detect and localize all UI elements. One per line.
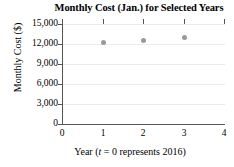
y-tick-label-6000: 6,000 (16, 78, 58, 88)
y-tick-label-3000: 3,000 (16, 98, 58, 108)
x-tick-0 (62, 19, 63, 24)
y-axis-line (62, 24, 63, 124)
x-tick-label-1: 1 (93, 128, 113, 138)
gridline-9000 (62, 64, 225, 65)
y-tick-label-9000: 9,000 (16, 58, 58, 68)
gridline-6000 (62, 84, 225, 85)
x-tick-1 (103, 19, 104, 24)
y-tick-9000 (58, 64, 63, 65)
y-tick-0 (58, 124, 63, 125)
plot-area (62, 24, 225, 124)
data-point-2 (141, 38, 146, 43)
x-axis-title: Year (t = 0 represents 2016) (30, 146, 230, 157)
x-axis-line (62, 124, 225, 125)
x-tick-label-3: 3 (174, 128, 194, 138)
data-point-1 (101, 40, 106, 45)
y-tick-3000 (58, 104, 63, 105)
y-tick-label-0: 0 (16, 118, 58, 128)
x-tick-2 (143, 19, 144, 24)
y-tick-label-15000: 15,000 (16, 18, 58, 28)
y-tick-12000 (58, 44, 63, 45)
gridline-3000 (62, 104, 225, 105)
chart-title: Monthly Cost (Jan.) for Selected Years (46, 2, 232, 13)
x-tick-label-2: 2 (133, 128, 153, 138)
x-axis-title-suffix: = 0 represents 2016) (101, 146, 186, 157)
data-point-3 (182, 35, 187, 40)
y-tick-15000 (58, 24, 63, 25)
y-tick-label-12000: 12,000 (16, 38, 58, 48)
x-axis-title-prefix: Year ( (74, 146, 98, 157)
gridline-12000 (62, 44, 225, 45)
x-tick-3 (184, 19, 185, 24)
y-tick-6000 (58, 84, 63, 85)
x-tick-label-4: 4 (214, 128, 234, 138)
gridline-15000 (62, 24, 225, 25)
chart-figure: Monthly Cost (Jan.) for Selected Years M… (0, 0, 234, 167)
x-tick-label-0: 0 (52, 128, 72, 138)
x-tick-4 (224, 19, 225, 24)
